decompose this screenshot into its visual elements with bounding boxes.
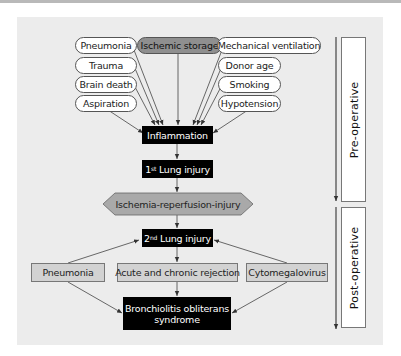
factor-ischemic-storage: Ischemic storage <box>137 37 222 54</box>
factor-aspiration: Aspiration <box>75 95 137 112</box>
node-inflammation: Inflammation <box>142 126 213 144</box>
post-factor-cytomegalovirus: Cytomegalovirus <box>246 263 328 282</box>
factor-brain-death: Brain death <box>75 76 137 93</box>
post-factor-pneumonia: Pneumonia <box>31 263 105 282</box>
factor-trauma: Trauma <box>75 57 137 74</box>
factor-smoking: Smoking <box>218 76 281 93</box>
first-label: Lung injury <box>156 164 210 175</box>
post-factor-rejection: Acute and chronic rejection <box>117 263 238 282</box>
factor-donor-age: Donor age <box>218 57 281 74</box>
node-first-lung-injury: 1st Lung injury <box>142 160 213 178</box>
phase-pre-label: Pre-operative <box>347 81 360 158</box>
factor-mechanical-ventilation: Mechanical ventilation <box>217 37 321 54</box>
phase-pre-operative: Pre-operative <box>341 37 366 202</box>
node-second-lung-injury: 2nd Lung injury <box>142 229 213 247</box>
factor-hypotension: Hypotension <box>218 95 281 112</box>
second-label: Lung injury <box>157 233 211 244</box>
node-bronchiolitis-obliterans: Bronchiolitis obliterans syndrome <box>123 297 231 330</box>
outcome-line-2: syndrome <box>154 314 200 325</box>
node-ischemia-reperfusion: Ischemia-reperfusion-injury <box>103 193 253 215</box>
phase-post-label: Post-operative <box>347 226 360 308</box>
phase-post-operative: Post-operative <box>341 207 366 328</box>
outcome-line-1: Bronchiolitis obliterans <box>125 303 229 314</box>
factor-pneumonia: Pneumonia <box>75 37 137 54</box>
